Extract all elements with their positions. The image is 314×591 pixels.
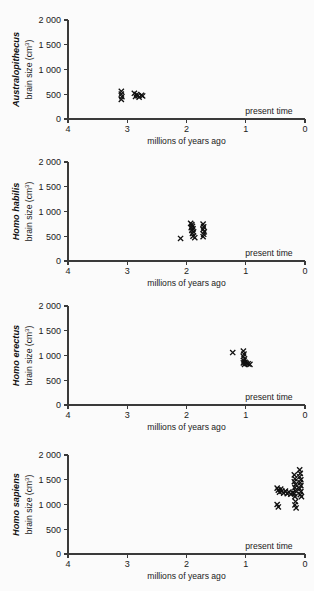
x-tick-label: 3 [125,124,130,134]
x-tick-label: 4 [65,410,70,420]
brain-size-timeline-figure: 05001 0001 5002 00043210millions of year… [0,0,314,591]
y-tick-label: 0 [56,256,61,266]
y-tick-label: 500 [46,232,61,242]
svg-text:brain size (cm3): brain size (cm3) [24,40,34,100]
x-axis-title: millions of years ago [147,422,226,432]
x-tick-label: 0 [302,124,307,134]
y-tick-label: 0 [56,400,61,410]
x-tick-label: 1 [243,266,248,276]
x-tick-label: 4 [65,266,70,276]
data-points [230,348,252,367]
y-axis-title: brain size (cm3) [24,40,34,100]
present-time-label: present time [245,541,293,551]
y-tick-label: 2 000 [38,15,61,25]
y-axis-title: brain size (cm3) [24,182,34,242]
svg-text:brain size (cm3): brain size (cm3) [24,326,34,386]
y-tick-label: 1 500 [38,326,61,336]
y-tick-label: 1 500 [38,182,61,192]
svg-text:brain size (cm3): brain size (cm3) [24,182,34,242]
species-label: Homo habilis [11,183,21,241]
y-tick-label: 500 [46,376,61,386]
x-axis-title: millions of years ago [147,571,226,581]
y-tick-label: 1 000 [38,500,61,510]
y-tick-label: 0 [56,549,61,559]
x-tick-label: 3 [125,266,130,276]
x-tick-label: 1 [243,124,248,134]
y-tick-label: 0 [56,114,61,124]
data-points [275,467,304,510]
data-points [119,89,146,102]
species-label: Homo erectus [11,325,21,386]
x-axis-title: millions of years ago [147,136,226,146]
x-tick-label: 1 [243,410,248,420]
x-axis-title: millions of years ago [147,278,226,288]
y-tick-label: 500 [46,90,61,100]
data-point-marker [299,494,304,499]
x-tick-label: 0 [302,266,307,276]
x-tick-label: 3 [125,559,130,569]
y-tick-label: 1 000 [38,207,61,217]
y-tick-label: 1 000 [38,65,61,75]
y-tick-label: 1 500 [38,475,61,485]
y-tick-label: 2 000 [38,157,61,167]
x-tick-label: 4 [65,559,70,569]
x-tick-label: 2 [184,266,189,276]
y-tick-label: 500 [46,525,61,535]
data-point-marker [178,236,183,241]
chart-panel-4: 05001 0001 5002 00043210millions of year… [0,437,314,591]
y-axis-title: brain size (cm3) [24,326,34,386]
present-time-label: present time [245,248,293,258]
chart-panel-1: 05001 0001 5002 00043210millions of year… [0,4,314,148]
x-tick-label: 1 [243,559,248,569]
y-tick-label: 1 000 [38,351,61,361]
y-tick-label: 2 000 [38,301,61,311]
species-label: Homo sapiens [11,473,21,536]
x-tick-label: 4 [65,124,70,134]
present-time-label: present time [245,392,293,402]
x-tick-label: 3 [125,410,130,420]
x-tick-label: 0 [302,559,307,569]
species-label: Australopithecus [11,32,21,108]
y-tick-label: 2 000 [38,450,61,460]
x-tick-label: 2 [184,410,189,420]
x-tick-label: 0 [302,410,307,420]
x-tick-label: 2 [184,124,189,134]
y-axis-title: brain size (cm3) [24,475,34,535]
data-point-marker [230,350,235,355]
y-tick-label: 1 500 [38,40,61,50]
x-tick-label: 2 [184,559,189,569]
chart-panel-3: 05001 0001 5002 00043210millions of year… [0,292,314,437]
svg-text:brain size (cm3): brain size (cm3) [24,475,34,535]
data-points [178,221,207,241]
present-time-label: present time [245,106,293,116]
chart-panel-2: 05001 0001 5002 00043210millions of year… [0,148,314,292]
